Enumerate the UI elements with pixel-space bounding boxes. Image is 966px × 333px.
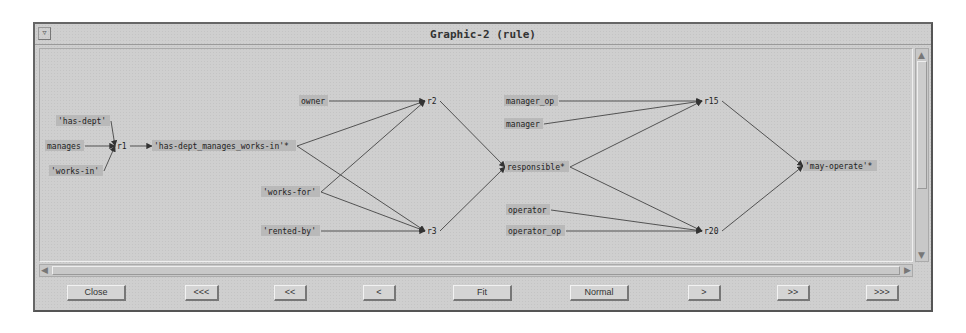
rule-graph: 'has-dept'manages'works-in'r1'has-dept_m… <box>0 0 966 333</box>
node-label: manages <box>47 142 81 151</box>
node-label: 'rented-by' <box>263 227 316 236</box>
node-label: r20 <box>704 227 719 236</box>
graph-edge-r2-to-responsible <box>440 101 505 167</box>
node-label: r15 <box>704 97 719 106</box>
graph-edge-works-for-to-r3 <box>321 192 425 231</box>
graph-node-operator[interactable]: operator <box>506 204 550 215</box>
node-label: operator_op <box>508 227 561 236</box>
graph-node-has-dept_manages_works-in[interactable]: 'has-dept_manages_works-in'* <box>152 140 296 151</box>
graph-node-r2[interactable]: r2 <box>427 97 437 106</box>
graph-node-rented-by[interactable]: 'rented-by' <box>261 225 320 236</box>
node-label: 'works-for' <box>263 188 316 197</box>
node-label: 'may-operate'* <box>805 162 873 171</box>
graph-node-manages[interactable]: manages <box>45 140 84 151</box>
graph-node-manager_op[interactable]: manager_op <box>504 95 558 106</box>
node-label: r3 <box>427 227 437 236</box>
graph-node-r1[interactable]: r1 <box>117 142 127 151</box>
node-label: 'works-in' <box>51 167 99 176</box>
graph-node-may-operate[interactable]: 'may-operate'* <box>803 160 877 171</box>
graph-edge-works-for-to-r2 <box>321 101 425 192</box>
graph-node-operator_op[interactable]: operator_op <box>506 225 565 236</box>
node-label: 'has-dept_manages_works-in'* <box>154 142 289 151</box>
graph-edge-has-dept_manages_works-in-to-r2 <box>297 101 425 146</box>
graph-edges <box>85 101 803 231</box>
graph-node-responsible[interactable]: responsible* <box>505 161 569 172</box>
graph-edge-has-dept-to-r1 <box>111 121 115 146</box>
graph-node-has-dept[interactable]: 'has-dept' <box>56 115 110 126</box>
node-label: owner <box>301 97 325 106</box>
node-label: r1 <box>117 142 127 151</box>
graph-node-r15[interactable]: r15 <box>704 97 719 106</box>
node-label: operator <box>508 206 547 215</box>
graph-edge-r20-to-may-operate <box>722 166 803 231</box>
graph-node-r20[interactable]: r20 <box>704 227 719 236</box>
graph-edge-works-in-to-r1 <box>104 146 115 171</box>
graph-node-owner[interactable]: owner <box>299 95 328 106</box>
node-label: r2 <box>427 97 437 106</box>
graph-edge-r15-to-may-operate <box>722 101 803 166</box>
node-label: 'has-dept' <box>58 117 106 126</box>
node-label: responsible* <box>507 163 565 172</box>
graph-node-works-in[interactable]: 'works-in' <box>49 165 103 176</box>
graph-node-r3[interactable]: r3 <box>427 227 437 236</box>
node-label: manager <box>506 120 540 129</box>
graph-node-works-for[interactable]: 'works-for' <box>261 186 320 197</box>
graph-edge-r3-to-responsible <box>440 167 505 231</box>
graph-nodes: 'has-dept'manages'works-in'r1'has-dept_m… <box>45 95 877 236</box>
graph-node-manager[interactable]: manager <box>504 118 543 129</box>
node-label: manager_op <box>506 97 554 106</box>
